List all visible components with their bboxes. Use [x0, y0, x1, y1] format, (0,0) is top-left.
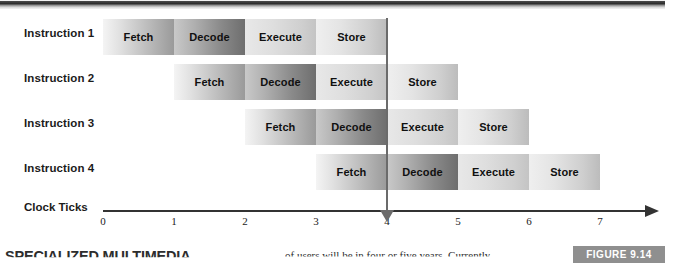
pipeline-stage-decode: Decode	[316, 109, 387, 145]
axis-title: Clock Ticks	[24, 201, 88, 213]
tick-label: 6	[519, 215, 539, 227]
instruction-row: Instruction 1FetchDecodeExecuteStore	[0, 14, 673, 59]
clock-marker-line	[386, 18, 388, 214]
pipeline-stage-store: Store	[387, 64, 458, 100]
axis-line	[103, 210, 648, 212]
pipeline-stage-fetch: Fetch	[174, 64, 245, 100]
instruction-label: Instruction 3	[24, 117, 94, 129]
pipeline-stage-store: Store	[458, 109, 529, 145]
pipeline-stage-store: Store	[529, 154, 600, 190]
tick-label: 1	[164, 215, 184, 227]
pipeline-stage-execute: Execute	[316, 64, 387, 100]
page-top-rule-gap	[665, 0, 673, 9]
pipeline-stage-store: Store	[316, 19, 387, 55]
pipeline-stage-fetch: Fetch	[103, 19, 174, 55]
page-top-rule	[0, 0, 673, 9]
tick-label: 5	[448, 215, 468, 227]
pipeline-stage-fetch: Fetch	[316, 154, 387, 190]
instruction-row: Instruction 3FetchDecodeExecuteStore	[0, 104, 673, 149]
middle-column-text: of users will be in four or five years. …	[285, 249, 490, 261]
figure-page: Instruction 1FetchDecodeExecuteStoreInst…	[0, 0, 673, 267]
pipeline-stage-execute: Execute	[245, 19, 316, 55]
axis-arrowhead-icon	[645, 205, 659, 217]
tick-label: 7	[590, 215, 610, 227]
tick-label: 0	[93, 215, 113, 227]
tick-label: 2	[235, 215, 255, 227]
instruction-label: Instruction 2	[24, 72, 94, 84]
clock-tick-axis: Clock Ticks 01234567	[0, 197, 673, 241]
figure-number-badge: FIGURE 9.14	[573, 246, 665, 263]
pipeline-stage-decode: Decode	[387, 154, 458, 190]
instruction-label: Instruction 4	[24, 162, 94, 174]
instruction-row: Instruction 2FetchDecodeExecuteStore	[0, 59, 673, 104]
left-column-heading: SPECIALIZED MULTIMEDIA	[5, 248, 190, 264]
pipeline-stage-execute: Execute	[458, 154, 529, 190]
instruction-label: Instruction 1	[24, 27, 94, 39]
pipeline-stage-execute: Execute	[387, 109, 458, 145]
clock-marker-arrowhead	[380, 210, 394, 222]
pipeline-stage-fetch: Fetch	[245, 109, 316, 145]
instruction-row: Instruction 4FetchDecodeExecuteStore	[0, 149, 673, 194]
pipeline-stage-decode: Decode	[245, 64, 316, 100]
pipeline-diagram: Instruction 1FetchDecodeExecuteStoreInst…	[0, 9, 673, 241]
pipeline-stage-decode: Decode	[174, 19, 245, 55]
tick-label: 3	[306, 215, 326, 227]
